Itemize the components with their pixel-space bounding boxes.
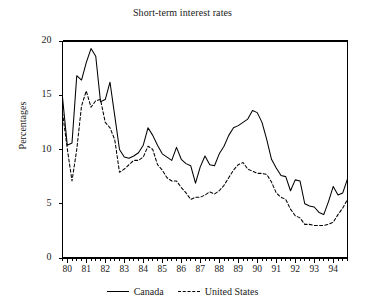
series-line-united-states bbox=[63, 91, 348, 226]
legend-label: Canada bbox=[134, 286, 164, 297]
legend-swatch-dashed-line-icon bbox=[178, 291, 200, 293]
chart-figure: Short-term interest rates Percentages 05… bbox=[0, 0, 365, 307]
axis-ticks bbox=[59, 41, 348, 263]
axis-lines bbox=[63, 41, 348, 258]
plot-area bbox=[0, 0, 365, 307]
legend-item-canada[interactable]: Canada bbox=[107, 286, 164, 297]
data-series bbox=[63, 49, 348, 226]
legend-label: United States bbox=[205, 286, 259, 297]
chart-legend: CanadaUnited States bbox=[0, 286, 365, 297]
legend-swatch-solid-line-icon bbox=[107, 291, 129, 293]
series-line-canada bbox=[63, 49, 348, 215]
legend-item-united-states[interactable]: United States bbox=[178, 286, 259, 297]
